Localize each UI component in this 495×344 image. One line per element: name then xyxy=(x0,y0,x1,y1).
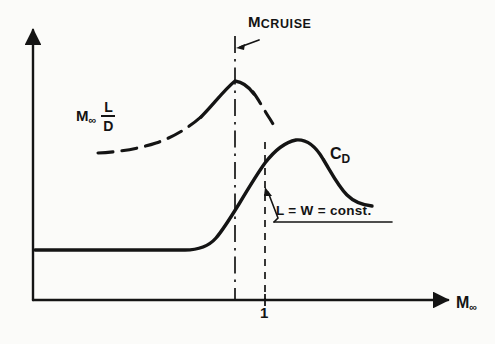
label-cd-sub: D xyxy=(342,152,351,166)
label-x-axis: M∞ xyxy=(456,295,477,313)
label-m-cruise-sub: CRUISE xyxy=(261,17,312,31)
label-tick-one: 1 xyxy=(260,305,268,320)
sketch-svg xyxy=(0,0,495,344)
m-cruise-leader-arrowhead xyxy=(236,44,245,50)
range-factor-peak xyxy=(201,81,254,117)
label-cd-base: C xyxy=(330,145,342,162)
infinity-icon: ∞ xyxy=(469,301,477,313)
label-m-cruise: MCRUISE xyxy=(248,14,312,31)
label-range-factor-m-base: M xyxy=(76,107,89,124)
figure-canvas: MCRUISE M∞LD CD L = W = const. M∞ 1 xyxy=(0,0,495,344)
label-range-factor-fraction: LD xyxy=(101,100,115,133)
range-factor-curve xyxy=(98,81,277,153)
range-factor-right-branch xyxy=(253,92,277,130)
label-range-factor-m: M∞ xyxy=(76,108,96,126)
infinity-icon: ∞ xyxy=(89,114,97,126)
label-range-factor-numerator: L xyxy=(101,100,115,115)
label-m-cruise-base: M xyxy=(248,13,261,30)
fraction-bar-icon xyxy=(101,115,115,117)
label-x-axis-base: M xyxy=(456,294,469,311)
label-cd: CD xyxy=(330,146,350,165)
cd-curve xyxy=(35,140,372,250)
label-range-factor-denominator: D xyxy=(101,118,115,133)
axes-group xyxy=(33,30,448,306)
label-lw-const: L = W = const. xyxy=(276,204,371,218)
label-range-factor: M∞LD xyxy=(76,100,115,133)
lw-const-leader-arrowhead xyxy=(264,187,272,196)
